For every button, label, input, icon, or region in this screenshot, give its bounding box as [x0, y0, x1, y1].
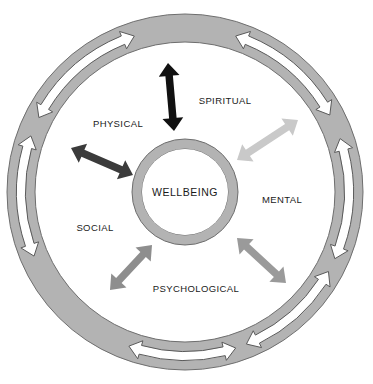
domain-label-psychological: PSYCHOLOGICAL [153, 283, 240, 294]
arrow-mental-psych [237, 238, 286, 283]
arrow-physical-social [71, 144, 133, 180]
domain-label-social: SOCIAL [76, 222, 113, 233]
arrow-physical-spiritual [159, 63, 183, 131]
domain-label-physical: PHYSICAL [93, 118, 143, 129]
wellbeing-diagram: PHYSICALSPIRITUALMENTALPSYCHOLOGICALSOCI… [0, 0, 373, 384]
domain-label-spiritual: SPIRITUAL [199, 95, 252, 106]
center-label: WELLBEING [152, 186, 218, 198]
arrow-spiritual-mental [237, 118, 298, 161]
domain-label-mental: MENTAL [262, 194, 302, 205]
arrow-psych-social [110, 245, 152, 290]
diagram-canvas: PHYSICALSPIRITUALMENTALPSYCHOLOGICALSOCI… [0, 0, 373, 384]
